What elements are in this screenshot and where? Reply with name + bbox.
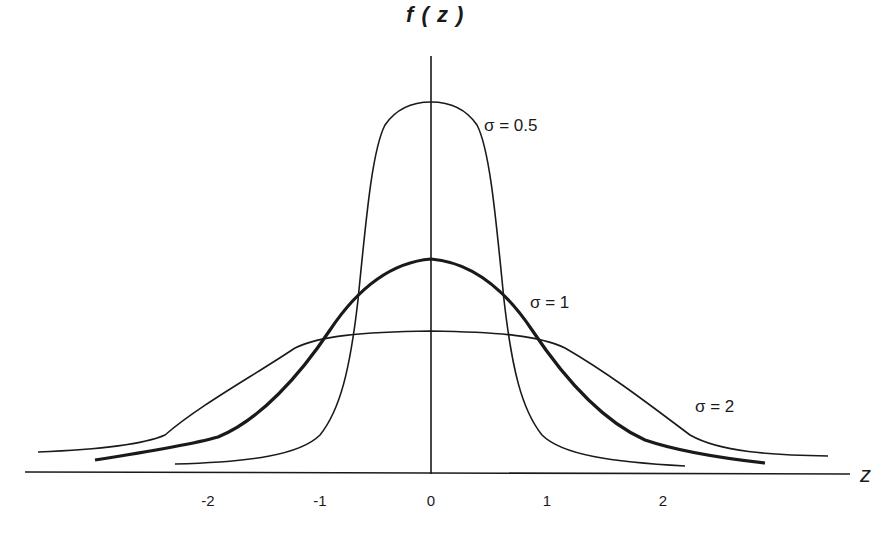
curve-sigma-2	[38, 331, 828, 456]
x-axis	[25, 472, 850, 474]
x-tick-label: 2	[659, 492, 667, 509]
curve-sigma-1	[95, 259, 765, 463]
x-axis-label: z	[860, 462, 871, 488]
y-axis-label: f ( z )	[406, 2, 464, 28]
chart-canvas	[0, 0, 890, 536]
x-tick-label: -1	[313, 492, 326, 509]
curve-sigma-0-5	[175, 102, 685, 466]
series-label-sigma-1: σ = 1	[530, 293, 569, 313]
x-tick-label: 1	[543, 492, 551, 509]
series-label-sigma-0-5: σ = 0.5	[484, 116, 538, 136]
x-tick-label: 0	[427, 492, 435, 509]
x-tick-label: -2	[201, 492, 214, 509]
series-label-sigma-2: σ = 2	[695, 397, 734, 417]
